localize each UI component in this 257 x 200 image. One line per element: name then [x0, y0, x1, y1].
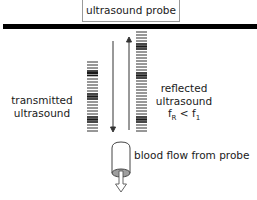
transmitted-direction-arrow	[111, 41, 116, 132]
reflected-direction-arrow	[127, 37, 132, 130]
transmitted-ultrasound-label: transmitted ultrasound	[2, 94, 82, 119]
frequency-relation: fR < f1	[146, 107, 222, 125]
blood-flow-label: blood flow from probe	[134, 149, 249, 162]
reflected-ultrasound-label: reflected ultrasound fR < f1	[146, 82, 222, 125]
transmitted-wave-bars	[87, 62, 98, 131]
